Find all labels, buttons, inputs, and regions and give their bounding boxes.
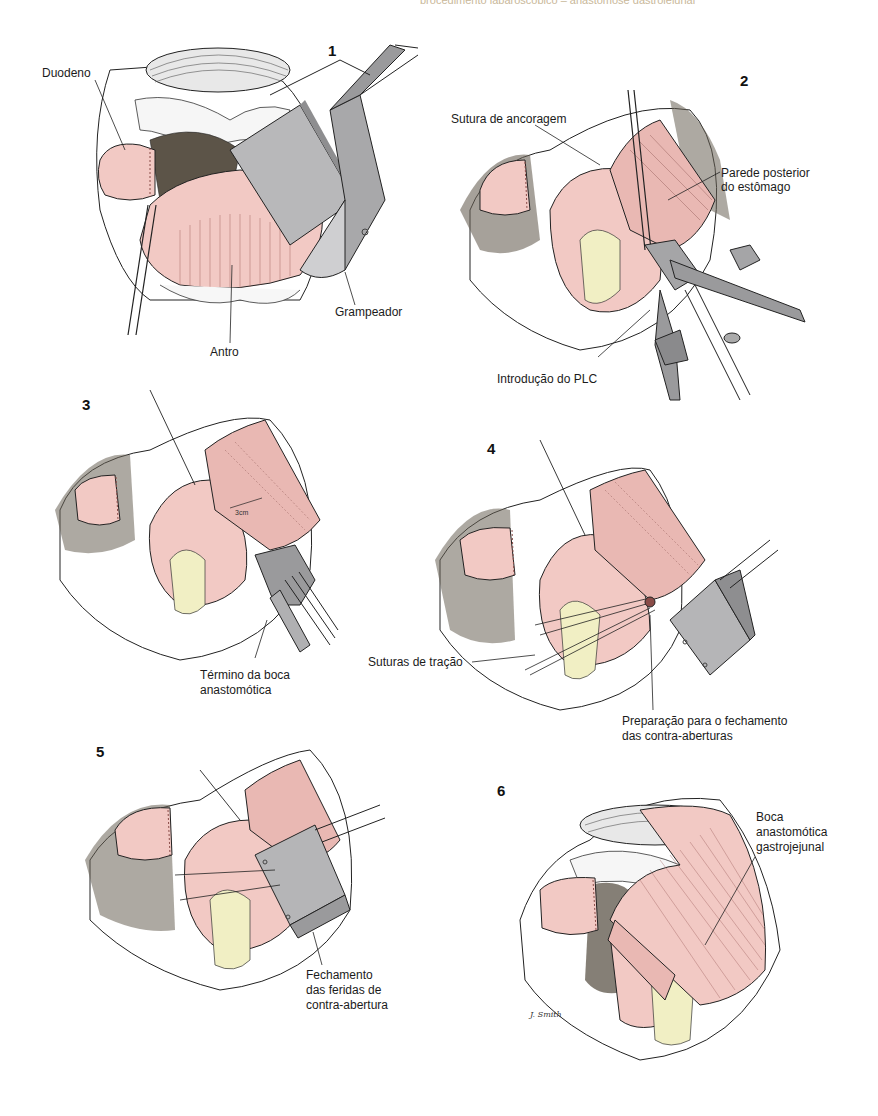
panel-number: 1 bbox=[328, 42, 336, 59]
label-boca: Boca bbox=[756, 810, 783, 824]
label-feridas: das feridas de bbox=[306, 983, 381, 997]
panel-number: 4 bbox=[487, 440, 495, 457]
label-termino-boca: Término da boca bbox=[200, 668, 290, 682]
label-introducao-plc: Introdução do PLC bbox=[497, 372, 597, 386]
label-contra-aberturas: das contra-aberturas bbox=[622, 729, 733, 743]
label-anastomotica-6: anastomótica bbox=[756, 825, 827, 839]
label-do-estomago: do estômago bbox=[721, 180, 790, 194]
label-anastomotica: anastomótica bbox=[200, 683, 271, 697]
label-antro: Antro bbox=[210, 345, 239, 359]
label-suturas-tracao: Suturas de tração bbox=[368, 655, 463, 669]
panel-5: 5 Fechamento das feridas de contra-abert… bbox=[60, 710, 440, 1030]
panel-number: 2 bbox=[740, 72, 748, 89]
label-fechamento: Fechamento bbox=[306, 968, 373, 982]
label-contra-abertura: contra-abertura bbox=[306, 998, 388, 1012]
panel-3-illustration: 3cm bbox=[30, 380, 390, 710]
label-parede-posterior: Parede posterior bbox=[721, 166, 810, 180]
panel-2: 2 Sutura de ancoragem Parede posterior d… bbox=[430, 60, 870, 410]
panel-6-illustration bbox=[480, 770, 860, 1100]
panel-3: 3cm 3 Término da boca anastomótica bbox=[30, 380, 390, 710]
label-preparacao: Preparação para o fechamento bbox=[622, 714, 787, 728]
running-header: procedimento laparoscópico – anastomose … bbox=[420, 0, 860, 4]
panel-number: 3 bbox=[82, 396, 90, 413]
label-grampeador: Grampeador bbox=[335, 305, 402, 319]
panel-number: 5 bbox=[96, 743, 104, 760]
panel-6: 6 Boca anastomótica gastrojejunal J. Smi… bbox=[480, 770, 860, 1100]
measure-3cm: 3cm bbox=[235, 509, 248, 516]
label-duodeno: Duodeno bbox=[42, 66, 91, 80]
artist-signature: J. Smith bbox=[530, 1010, 562, 1019]
label-gastrojejunal: gastrojejunal bbox=[756, 840, 824, 854]
panel-1-illustration bbox=[0, 0, 440, 380]
figure-page: procedimento laparoscópico – anastomose … bbox=[0, 0, 878, 1116]
panel-4: 4 Suturas de tração Preparação para o fe… bbox=[360, 430, 840, 750]
panel-4-illustration bbox=[360, 430, 840, 750]
panel-5-illustration bbox=[60, 710, 440, 1030]
panel-1: 1 Duodeno Grampeador Antro bbox=[0, 0, 440, 380]
panel-number: 6 bbox=[497, 782, 505, 799]
label-sutura-ancoragem: Sutura de ancoragem bbox=[451, 112, 566, 126]
